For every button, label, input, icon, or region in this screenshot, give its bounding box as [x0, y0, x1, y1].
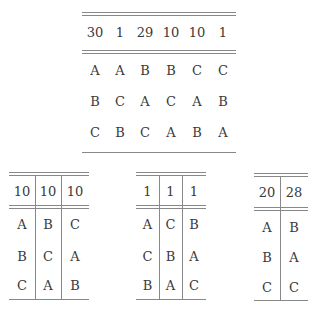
header-rule-2 — [136, 208, 206, 209]
top-rule — [9, 172, 89, 173]
header-rule — [82, 50, 236, 51]
table-cell: B — [159, 249, 182, 265]
table-cell: C — [254, 280, 280, 296]
bottom-rule — [254, 300, 308, 301]
table-cell: C — [136, 249, 159, 265]
table-cell: C — [132, 125, 158, 141]
table-cell: B — [254, 250, 280, 266]
top-rule-2 — [254, 176, 308, 177]
table-cell: A — [136, 217, 159, 233]
table-cell: C — [9, 278, 35, 294]
table-cell: B — [61, 278, 89, 294]
header-cell: 10 — [35, 184, 61, 200]
bottom-rule — [9, 299, 89, 300]
top-rule — [136, 172, 206, 173]
header-rule-2 — [9, 208, 89, 209]
top-rule-2 — [136, 175, 206, 176]
table-cell: C — [82, 125, 108, 141]
table-cell: A — [35, 278, 61, 294]
table-cell: A — [280, 250, 308, 266]
table-cell: A — [159, 278, 182, 294]
table-cell: C — [159, 217, 182, 233]
table-cell: A — [182, 249, 206, 265]
bottom-rule — [136, 299, 206, 300]
top-rule — [254, 173, 308, 174]
header-cell: 28 — [280, 185, 308, 201]
header-cell: 10 — [184, 25, 210, 41]
header-rule — [9, 205, 89, 206]
table-cell: C — [210, 63, 236, 79]
header-rule — [254, 207, 308, 208]
header-cell: 10 — [158, 25, 184, 41]
table-cell: A — [108, 63, 132, 79]
header-cell: 20 — [254, 185, 280, 201]
top-rule-2 — [82, 15, 236, 16]
header-cell: 1 — [136, 184, 159, 200]
table-cell: B — [132, 63, 158, 79]
table-cell: A — [82, 63, 108, 79]
table-cell: B — [280, 220, 308, 236]
header-cell: 30 — [82, 25, 108, 41]
table-cell: A — [254, 220, 280, 236]
table-cell: B — [9, 249, 35, 265]
table-cell: C — [61, 217, 89, 233]
table-cell: B — [158, 63, 184, 79]
table-cell: C — [35, 249, 61, 265]
table-cell: B — [210, 94, 236, 110]
table-cell: A — [132, 94, 158, 110]
table-cell: B — [82, 94, 108, 110]
header-cell: 1 — [210, 25, 236, 41]
table-cell: C — [158, 94, 184, 110]
table-cell: C — [184, 63, 210, 79]
table-cell: A — [61, 249, 89, 265]
header-cell: 1 — [182, 184, 206, 200]
header-rule-2 — [82, 53, 236, 54]
header-cell: 29 — [132, 25, 158, 41]
top-rule-2 — [9, 175, 89, 176]
table-cell: A — [9, 217, 35, 233]
table-cell: B — [108, 125, 132, 141]
header-cell: 1 — [108, 25, 132, 41]
header-rule-2 — [254, 210, 308, 211]
top-rule — [82, 12, 236, 13]
table-cell: C — [108, 94, 132, 110]
header-rule — [136, 205, 206, 206]
table-cell: B — [184, 125, 210, 141]
table-cell: B — [35, 217, 61, 233]
table-cell: B — [136, 278, 159, 294]
bottom-rule — [82, 152, 236, 153]
header-cell: 10 — [61, 184, 89, 200]
table-cell: B — [182, 217, 206, 233]
table-cell: A — [184, 94, 210, 110]
table-cell: A — [158, 125, 184, 141]
table-cell: C — [182, 278, 206, 294]
table-cell: A — [210, 125, 236, 141]
header-cell: 10 — [9, 184, 35, 200]
header-cell: 1 — [159, 184, 182, 200]
table-cell: C — [280, 280, 308, 296]
